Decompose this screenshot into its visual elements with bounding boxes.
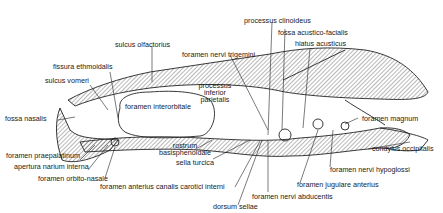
label-foramen-nervi-trigemini: foramen nervi trigemini [182, 51, 255, 58]
label-condylus-occipitalis: condylus occipitalis [372, 145, 434, 152]
skull-floor [80, 128, 410, 157]
label-fossa-nasalis: fossa nasalis [5, 115, 47, 122]
label-foramen-magnum: foramen magnum [362, 115, 418, 122]
label-foramen-nervi-hypoglossi: foramen nervi hypoglossi [330, 166, 410, 173]
label-foramen-interorbitale: foramen interorbitale [125, 103, 191, 110]
label-foramen-anterius-canalis-carotici-interni: foramen anterius canalis carotici intern… [100, 183, 225, 190]
label-foramen-nervi-abducentis: foramen nervi abducentis [252, 193, 333, 200]
label-line-2: basisphenoidale [155, 149, 215, 156]
label-line-3: parietalis [190, 96, 240, 103]
label-rostrum-basisphenoidale: rostrum basisphenoidale [155, 142, 215, 156]
label-sulcus-vomeri: sulcus vomeri [45, 77, 89, 84]
label-foramen-jugulare-anterius: foramen jugulare anterius [297, 181, 379, 188]
label-fissura-ethmoidalis: fissura ethmoidalis [53, 63, 113, 70]
label-fossa-acustico-facialis: fossa acustico-facialis [278, 29, 348, 36]
label-apertura-narium-interna: apertura narium interna [14, 163, 89, 170]
label-sella-turcica: sella turcica [176, 159, 214, 166]
label-foramen-praepalatinum: foramen praepalatinum [6, 152, 80, 159]
label-dorsum-sellae: dorsum sellae [213, 203, 258, 210]
label-processus-inferior-parietalis: processus inferior parietalis [190, 82, 240, 104]
label-hiatus-acusticus: hiatus acusticus [295, 40, 346, 47]
label-foramen-orbito-nasale: foramen orbito-nasale [38, 175, 108, 182]
label-sulcus-olfactorius: sulcus olfactorius [115, 41, 170, 48]
label-processus-clinoideus: processus clinoideus [244, 17, 311, 24]
